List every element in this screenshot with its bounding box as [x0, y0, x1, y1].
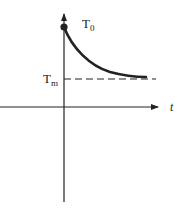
cooling-diagram: T0 Tm t	[0, 0, 177, 209]
medium-temp-label: Tm	[43, 71, 58, 88]
time-axis-label: t	[170, 100, 174, 114]
initial-point	[60, 23, 67, 30]
initial-temp-label: T0	[82, 16, 95, 33]
cooling-curve	[64, 27, 146, 77]
